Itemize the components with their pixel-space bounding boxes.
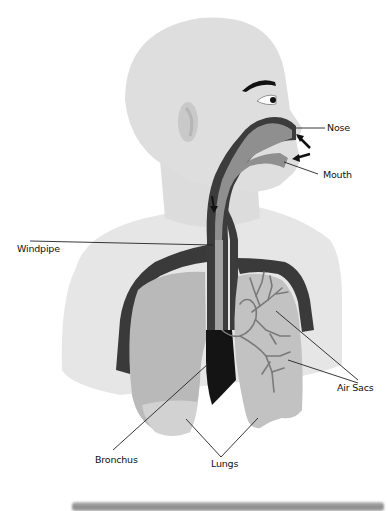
bottom-shadow-bar [72,502,384,511]
ear [178,102,198,142]
label-windpipe: Windpipe [17,243,60,254]
pupil [270,97,276,103]
label-mouth: Mouth [323,169,352,180]
label-bronchus: Bronchus [95,454,138,465]
respiratory-diagram [0,0,388,511]
label-lungs: Lungs [211,458,238,469]
trachea [215,240,223,330]
label-air-sacs: Air Sacs [337,382,374,393]
mediastinum [206,330,236,405]
head-silhouette [125,17,302,191]
lung-left-lower [142,401,198,436]
label-nose: Nose [327,122,350,133]
